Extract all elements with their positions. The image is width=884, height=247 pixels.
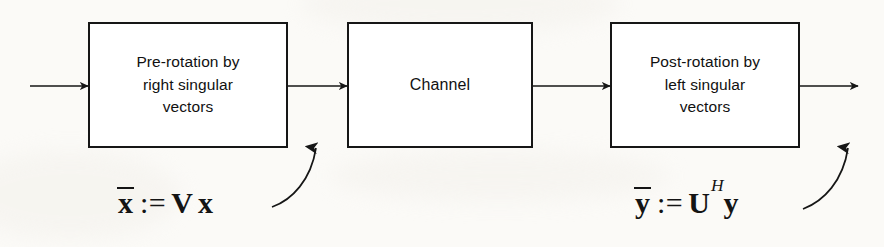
formula-y-bar-variable: y bbox=[635, 186, 650, 220]
formula-x-bar-assign: := bbox=[140, 186, 166, 219]
formula-x-bar-variable: x bbox=[118, 186, 133, 220]
formula-x-bar-definition: x:=Vx bbox=[118, 186, 213, 220]
formula-x-bar-operand: x bbox=[198, 186, 213, 219]
formula-y-bar-assign: := bbox=[657, 186, 683, 219]
formula-y-bar-definition: y:=UHy bbox=[635, 186, 739, 220]
block-diagram-canvas: Pre-rotation by right singular vectors C… bbox=[0, 0, 884, 247]
formula-y-bar-operand: y bbox=[724, 186, 739, 219]
formula-x-bar-matrix: V bbox=[171, 186, 193, 219]
x-bar-callout bbox=[272, 148, 316, 207]
callout-arrow-group bbox=[272, 148, 848, 209]
formula-y-bar-superscript: H bbox=[711, 175, 724, 195]
y-bar-callout bbox=[803, 148, 848, 209]
formula-y-bar-matrix: U bbox=[688, 186, 710, 219]
